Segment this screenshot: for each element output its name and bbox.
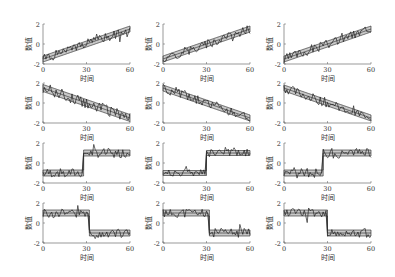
y-tick-label: 0 xyxy=(156,160,160,168)
x-tick-label: 0 xyxy=(282,66,286,74)
y-axis-label: 数值 xyxy=(144,156,153,170)
y-tick-label: -2 xyxy=(275,120,281,128)
x-tick-label: 0 xyxy=(41,125,45,133)
x-axis-label: 时间 xyxy=(321,74,335,83)
y-tick-label: -2 xyxy=(34,120,40,128)
x-axis-label: 时间 xyxy=(200,133,214,142)
subplot-r2-c2: -20203060时间数值 xyxy=(144,80,254,143)
x-tick-label: 60 xyxy=(246,125,254,133)
confidence-band xyxy=(43,210,130,236)
y-tick-label: -2 xyxy=(34,240,40,248)
y-tick-label: 2 xyxy=(277,140,281,148)
y-tick-label: 2 xyxy=(156,80,160,88)
x-tick-label: 60 xyxy=(367,125,375,133)
y-tick-label: -2 xyxy=(154,120,160,128)
y-tick-label: 2 xyxy=(156,21,160,29)
x-axis-label: 时间 xyxy=(80,193,94,202)
x-tick-label: 60 xyxy=(126,185,134,193)
y-tick-label: 0 xyxy=(36,220,40,228)
x-axis-label: 时间 xyxy=(321,193,335,202)
y-tick-label: 2 xyxy=(36,200,40,208)
y-tick-label: 0 xyxy=(277,160,281,168)
y-tick-label: -2 xyxy=(154,180,160,188)
y-tick-label: 0 xyxy=(36,41,40,49)
subplot-r2-c3: -20203060时间数值 xyxy=(265,80,375,143)
y-tick-label: 0 xyxy=(36,100,40,108)
x-tick-label: 60 xyxy=(246,245,254,253)
x-axis-label: 时间 xyxy=(321,133,335,142)
y-tick-label: -2 xyxy=(34,180,40,188)
subplot-r4-c1: -20203060时间数值 xyxy=(24,200,134,263)
y-tick-label: 0 xyxy=(277,100,281,108)
trend-line xyxy=(43,88,130,118)
subplot-r2-c1: -20203060时间数值 xyxy=(24,80,134,143)
y-tick-label: 0 xyxy=(156,100,160,108)
y-tick-label: -2 xyxy=(154,61,160,69)
y-tick-label: 2 xyxy=(36,21,40,29)
x-tick-label: 30 xyxy=(202,125,210,133)
y-tick-label: -2 xyxy=(275,180,281,188)
x-tick-label: 0 xyxy=(161,185,165,193)
trend-line xyxy=(163,88,250,118)
x-tick-label: 60 xyxy=(246,66,254,74)
y-axis-label: 数值 xyxy=(144,216,153,230)
y-tick-label: 2 xyxy=(156,140,160,148)
subplot-r3-c1: -20203060时间数值 xyxy=(24,140,134,203)
y-axis-label: 数值 xyxy=(24,37,33,51)
y-tick-label: 2 xyxy=(156,200,160,208)
y-tick-label: 0 xyxy=(36,160,40,168)
y-tick-label: -2 xyxy=(34,61,40,69)
x-tick-label: 30 xyxy=(82,185,90,193)
subplot-r3-c3: -20203060时间数值 xyxy=(265,140,375,203)
x-tick-label: 0 xyxy=(41,66,45,74)
trend-line xyxy=(163,29,250,59)
y-tick-label: -2 xyxy=(154,240,160,248)
x-axis-label: 时间 xyxy=(200,74,214,83)
y-tick-label: 2 xyxy=(277,21,281,29)
subplot-r3-c2: -20203060时间数值 xyxy=(144,140,254,203)
x-axis-label: 时间 xyxy=(80,74,94,83)
y-axis-label: 数值 xyxy=(24,216,33,230)
y-tick-label: 2 xyxy=(277,80,281,88)
x-tick-label: 30 xyxy=(202,66,210,74)
x-tick-label: 30 xyxy=(202,185,210,193)
y-tick-label: 2 xyxy=(277,200,281,208)
x-tick-label: 60 xyxy=(367,66,375,74)
y-axis-label: 数值 xyxy=(24,96,33,110)
y-tick-label: 2 xyxy=(36,140,40,148)
y-tick-label: 0 xyxy=(156,220,160,228)
x-tick-label: 30 xyxy=(323,125,331,133)
y-axis-label: 数值 xyxy=(265,216,274,230)
y-axis-label: 数值 xyxy=(24,156,33,170)
x-tick-label: 0 xyxy=(161,245,165,253)
y-tick-label: 0 xyxy=(277,41,281,49)
x-tick-label: 60 xyxy=(246,185,254,193)
x-tick-label: 30 xyxy=(82,245,90,253)
y-tick-label: -2 xyxy=(275,61,281,69)
y-axis-label: 数值 xyxy=(265,96,274,110)
x-tick-label: 30 xyxy=(82,125,90,133)
x-tick-label: 30 xyxy=(323,66,331,74)
x-tick-label: 60 xyxy=(126,66,134,74)
y-axis-label: 数值 xyxy=(265,37,274,51)
subplot-r1-c1: -20203060时间数值 xyxy=(24,21,134,84)
x-tick-label: 0 xyxy=(161,125,165,133)
subplot-r4-c3: -20203060时间数值 xyxy=(265,200,375,263)
x-tick-label: 30 xyxy=(323,245,331,253)
y-axis-label: 数值 xyxy=(144,37,153,51)
x-tick-label: 0 xyxy=(161,66,165,74)
x-tick-label: 30 xyxy=(82,66,90,74)
y-axis-label: 数值 xyxy=(144,96,153,110)
y-tick-label: 0 xyxy=(156,41,160,49)
y-tick-label: 0 xyxy=(277,220,281,228)
x-tick-label: 60 xyxy=(367,245,375,253)
x-axis-label: 时间 xyxy=(200,253,214,262)
x-axis-label: 时间 xyxy=(200,193,214,202)
x-axis-label: 时间 xyxy=(80,133,94,142)
subplot-r4-c2: -20203060时间数值 xyxy=(144,200,254,263)
x-axis-label: 时间 xyxy=(321,253,335,262)
x-tick-label: 60 xyxy=(126,245,134,253)
x-tick-label: 0 xyxy=(282,125,286,133)
subplot-r1-c3: -20203060时间数值 xyxy=(265,21,375,84)
x-tick-label: 0 xyxy=(282,185,286,193)
